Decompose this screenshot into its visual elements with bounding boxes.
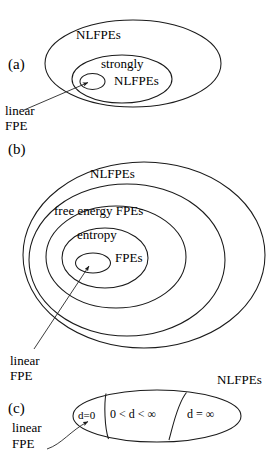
panel-c-annotation-line2: FPE bbox=[12, 437, 34, 452]
panel-b-annotation-line1: linear bbox=[10, 354, 40, 369]
panel-a-inner-ellipse bbox=[80, 74, 105, 90]
panel-b-second-set-label: free energy FPEs bbox=[54, 204, 143, 219]
panel-c-annotation-arrow bbox=[47, 422, 88, 450]
panel-c-annotation-line1: linear bbox=[12, 421, 42, 436]
panel-a-outer-set-label: NLFPEs bbox=[76, 28, 121, 43]
panel-a-annotation-line1: linear bbox=[5, 104, 35, 119]
panel-b-third-set-label-line2: FPEs bbox=[115, 251, 142, 266]
panel-c-region-d-zero-label: d=0 bbox=[78, 409, 95, 421]
panel-b-annotation-line2: FPE bbox=[10, 369, 32, 384]
panel-c-divider-right bbox=[169, 393, 187, 441]
panel-c-outer-set-label: NLFPEs bbox=[217, 373, 262, 388]
figure-nested-fpe-set-diagram: (a) NLFPEs strongly NLFPEs linear FPE (b… bbox=[0, 0, 276, 461]
panel-a-id: (a) bbox=[8, 56, 25, 73]
panel-a-middle-set-label-line1: strongly bbox=[101, 57, 144, 72]
panel-b-shapes bbox=[23, 162, 265, 349]
panel-c-region-d-infinite-label: d = ∞ bbox=[187, 408, 214, 421]
panel-b-outer-ellipse bbox=[23, 162, 265, 348]
panel-b-inner-ellipse bbox=[76, 253, 111, 273]
panel-b-outer-set-label: NLFPEs bbox=[90, 167, 135, 182]
panel-b-third-set-label-line1: entropy bbox=[77, 228, 117, 243]
panel-b-annotation-arrow bbox=[34, 266, 89, 349]
panel-c-outer-ellipse bbox=[73, 390, 241, 442]
panel-a-middle-set-label-line2: NLFPEs bbox=[114, 74, 159, 89]
panel-c-id: (c) bbox=[8, 400, 25, 417]
panel-c-region-d-finite-label: 0 < d < ∞ bbox=[110, 408, 156, 421]
panel-b-id: (b) bbox=[8, 141, 26, 158]
panel-a-annotation-line2: FPE bbox=[5, 119, 27, 134]
panel-c-divider-left bbox=[105, 394, 109, 440]
